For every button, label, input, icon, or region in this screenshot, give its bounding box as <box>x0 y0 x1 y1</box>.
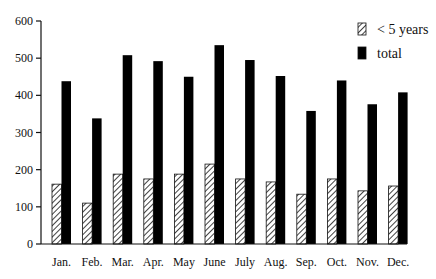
x-tick-label: Dec. <box>387 255 409 269</box>
bar-under-5-years <box>113 174 123 244</box>
bar-total <box>184 77 194 244</box>
bar-group-10 <box>358 104 377 244</box>
bar-group-8 <box>297 111 316 244</box>
y-tick-label: 300 <box>15 126 33 140</box>
bar-total <box>153 61 163 244</box>
bar-under-5-years <box>297 194 307 244</box>
bar-under-5-years <box>266 182 276 244</box>
x-tick-label: Feb. <box>82 255 103 269</box>
bar-group-0 <box>52 81 71 244</box>
x-tick-label: July <box>235 255 255 269</box>
legend-solid-swatch-icon <box>358 47 366 59</box>
x-axis: Jan.Feb.Mar.Apr.MayJuneJulyAug.Sep.Oct.N… <box>41 244 409 269</box>
bar-group-3 <box>144 61 163 244</box>
x-tick-label: Mar. <box>112 255 134 269</box>
bar-under-5-years <box>83 203 93 244</box>
bar-total <box>398 92 408 244</box>
bar-under-5-years <box>144 179 154 244</box>
bar-total <box>92 118 102 244</box>
bar-total <box>337 80 347 244</box>
bar-total <box>306 111 316 244</box>
bar-chart: 0100200300400500600 Jan.Feb.Mar.Apr.MayJ… <box>0 0 436 279</box>
bar-group-1 <box>83 118 102 244</box>
legend-hatched-swatch-icon <box>358 23 366 35</box>
y-tick-label: 0 <box>27 237 33 251</box>
bar-group-7 <box>266 76 285 244</box>
x-tick-label: Aug. <box>264 255 288 269</box>
bar-under-5-years <box>236 179 246 244</box>
bar-under-5-years <box>52 184 62 244</box>
y-tick-label: 200 <box>15 163 33 177</box>
legend-label: total <box>377 46 402 61</box>
y-tick-label: 100 <box>15 200 33 214</box>
bar-under-5-years <box>205 164 215 244</box>
bars <box>52 45 408 244</box>
x-tick-label: Jan. <box>52 255 71 269</box>
x-tick-label: Nov. <box>356 255 379 269</box>
bar-group-11 <box>389 92 408 244</box>
bar-under-5-years <box>174 174 184 244</box>
bar-total <box>62 81 72 244</box>
bar-total <box>368 104 378 244</box>
bar-total <box>123 55 133 244</box>
bar-total <box>245 60 255 244</box>
bar-group-4 <box>174 77 193 244</box>
bar-group-2 <box>113 55 132 244</box>
legend-label: < 5 years <box>377 22 428 37</box>
y-axis: 0100200300400500600 <box>15 14 41 251</box>
y-tick-label: 600 <box>15 14 33 28</box>
bar-under-5-years <box>358 191 368 244</box>
y-tick-label: 500 <box>15 51 33 65</box>
x-tick-label: Apr. <box>143 255 164 269</box>
x-tick-label: Oct. <box>327 255 347 269</box>
legend: < 5 yearstotal <box>358 22 428 61</box>
y-tick-label: 400 <box>15 88 33 102</box>
bar-group-9 <box>327 80 346 244</box>
x-tick-label: May <box>173 255 195 269</box>
bar-group-6 <box>236 60 255 244</box>
x-tick-label: Sep. <box>296 255 317 269</box>
x-tick-label: June <box>204 255 226 269</box>
bar-total <box>276 76 286 244</box>
bar-total <box>215 45 225 244</box>
bar-under-5-years <box>389 186 399 244</box>
bar-group-5 <box>205 45 224 244</box>
bar-under-5-years <box>327 179 337 244</box>
